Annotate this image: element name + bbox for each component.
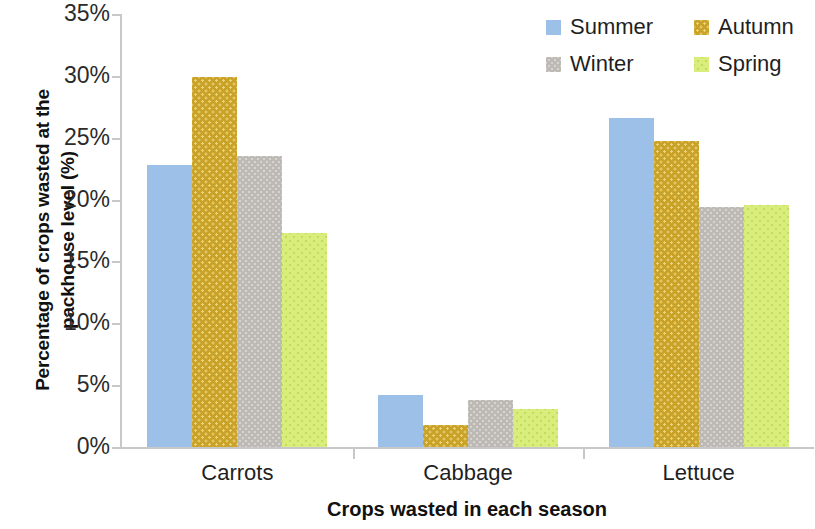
y-axis-tick-label: 25% — [38, 126, 110, 149]
bar-lettuce-spring — [744, 205, 789, 447]
y-axis-tick-mark — [112, 261, 121, 263]
legend-item-spring[interactable]: Spring — [694, 53, 782, 75]
y-axis-tick-mark — [112, 385, 121, 387]
y-axis-tick-label: 0% — [38, 435, 110, 458]
x-axis-tick-mark — [583, 449, 585, 459]
bar-carrots-summer — [147, 165, 192, 447]
legend-swatch-icon — [546, 20, 561, 35]
x-axis-category-label: Carrots — [122, 460, 353, 486]
y-axis-tick-labels: 0%5%10%15%20%25%30%35% — [30, 0, 110, 529]
legend-item-winter[interactable]: Winter — [546, 53, 634, 75]
x-axis-category-label: Lettuce — [583, 460, 814, 486]
x-axis-category-label: Cabbage — [353, 460, 584, 486]
bar-cabbage-winter — [468, 400, 513, 447]
bar-lettuce-winter — [699, 207, 744, 447]
legend-label: Autumn — [718, 16, 794, 38]
legend-item-autumn[interactable]: Autumn — [694, 16, 794, 38]
y-axis-tick-mark — [112, 138, 121, 140]
bar-chart: Percentage of crops wasted at the packho… — [0, 0, 815, 529]
y-axis-tick-label: 15% — [38, 249, 110, 272]
y-axis-tick-mark — [112, 323, 121, 325]
y-axis-tick-label: 30% — [38, 64, 110, 87]
legend-label: Spring — [718, 53, 782, 75]
legend-label: Winter — [570, 53, 634, 75]
bar-cabbage-spring — [513, 409, 558, 447]
legend-swatch-icon — [694, 57, 709, 72]
legend-item-summer[interactable]: Summer — [546, 16, 653, 38]
bar-carrots-winter — [237, 156, 282, 447]
bar-lettuce-autumn — [654, 141, 699, 447]
bar-lettuce-summer — [609, 118, 654, 447]
y-axis-tick-label: 35% — [38, 2, 110, 25]
y-axis-tick-mark — [112, 14, 121, 16]
x-axis-tick-mark — [353, 449, 355, 459]
y-axis-tick-mark — [112, 447, 121, 449]
legend-label: Summer — [570, 16, 653, 38]
bar-carrots-spring — [282, 233, 327, 447]
legend-swatch-icon — [546, 57, 561, 72]
bar-carrots-autumn — [192, 77, 237, 447]
y-axis-tick-label: 20% — [38, 188, 110, 211]
y-axis-tick-label: 5% — [38, 373, 110, 396]
y-axis-tick-mark — [112, 200, 121, 202]
legend-swatch-icon — [694, 20, 709, 35]
x-axis-title: Crops wasted in each season — [120, 498, 814, 521]
y-axis-tick-label: 10% — [38, 311, 110, 334]
chart-legend: SummerAutumnWinterSpring — [546, 12, 814, 84]
bar-cabbage-autumn — [423, 425, 468, 447]
bar-cabbage-summer — [378, 395, 423, 447]
y-axis-tick-mark — [112, 76, 121, 78]
x-axis-line — [120, 447, 814, 449]
